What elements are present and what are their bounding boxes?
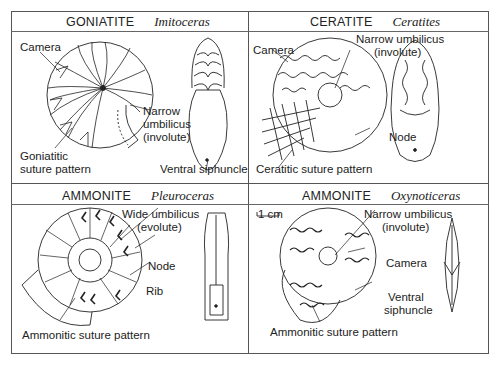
label-wide-umbilicus: Wide umbilicus <box>122 207 199 221</box>
label-narrow-umbilicus: umbilicus <box>143 117 191 131</box>
label-scale: 1 cm <box>258 207 283 221</box>
label-ammonitic-suture: Ammonitic suture pattern <box>22 328 150 342</box>
label-narrow-umbilicus: (involute) <box>382 220 429 234</box>
label-narrow-umbilicus: (involute) <box>374 45 421 59</box>
goniatite-shell-drawing <box>47 42 153 148</box>
label-narrow-umbilicus: Narrow umbilicus <box>356 32 444 46</box>
goniatite-ventral-drawing <box>189 38 227 170</box>
label-ventral-siphuncle: Ventral siphuncle <box>160 162 248 176</box>
label-camera: Camera <box>253 43 294 57</box>
label-narrow-umbilicus: Narrow umbilicus <box>364 207 452 221</box>
label-ventral-siphuncle: Ventral <box>388 290 424 304</box>
label-wide-umbilicus: (evolute) <box>137 220 182 234</box>
label-ceratitic-suture: Ceratitic suture pattern <box>256 162 372 176</box>
label-camera: Camera <box>386 256 427 270</box>
label-ventral-siphuncle: siphuncle <box>384 303 433 317</box>
label-goniatitic-suture: Goniatitic <box>20 149 68 163</box>
label-ammonitic-suture: Ammonitic suture pattern <box>270 325 398 339</box>
label-node: Node <box>148 259 176 273</box>
label-node: Node <box>389 130 417 144</box>
label-rib: Rib <box>146 284 163 298</box>
label-camera: Camera <box>20 40 61 54</box>
oxynoticeras-ventral-drawing <box>444 218 460 312</box>
label-goniatitic-suture: suture pattern <box>20 162 91 176</box>
pleuroceras-ventral-drawing <box>204 213 228 320</box>
label-narrow-umbilicus: Narrow <box>143 104 180 118</box>
pleuroceras-shell-drawing <box>22 208 142 326</box>
label-narrow-umbilicus: (involute) <box>143 130 190 144</box>
